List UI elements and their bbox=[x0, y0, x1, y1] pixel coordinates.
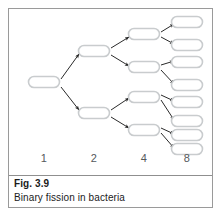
binary-fission-diagram bbox=[9, 9, 212, 157]
bacterial-cell bbox=[172, 130, 203, 141]
figure-caption: Fig. 3.9 Binary fission in bacteria bbox=[14, 178, 210, 204]
fission-arrow bbox=[111, 117, 129, 128]
generation-count-label: 4 bbox=[132, 152, 156, 164]
fission-arrow bbox=[111, 98, 129, 110]
bacterial-cell bbox=[172, 97, 203, 108]
generation-count-label: 2 bbox=[82, 152, 106, 164]
diagram-svg bbox=[9, 9, 212, 157]
fission-arrow bbox=[61, 87, 79, 110]
bacterial-cell bbox=[29, 77, 60, 88]
bacterial-cell bbox=[172, 17, 203, 28]
cell-layer bbox=[29, 17, 203, 155]
bacterial-cell bbox=[79, 46, 110, 57]
figure-frame: 1248 Fig. 3.9 Binary fission in bacteria bbox=[8, 8, 213, 208]
bacterial-cell bbox=[172, 116, 203, 127]
generation-count-label: 8 bbox=[175, 152, 199, 164]
bacterial-cell bbox=[129, 29, 160, 40]
fission-arrow bbox=[111, 37, 129, 48]
generation-count-label: 1 bbox=[32, 152, 56, 164]
bacterial-cell bbox=[172, 57, 203, 68]
fission-arrow bbox=[61, 54, 79, 79]
caption-divider bbox=[9, 175, 212, 176]
fission-arrow bbox=[111, 55, 129, 66]
bacterial-cell bbox=[172, 40, 203, 51]
bacterial-cell bbox=[129, 125, 160, 136]
bacterial-cell bbox=[129, 92, 160, 103]
figure-title: Binary fission in bacteria bbox=[14, 191, 210, 204]
bacterial-cell bbox=[129, 62, 160, 73]
generation-labels: 1248 bbox=[9, 152, 212, 172]
figure-number: Fig. 3.9 bbox=[14, 178, 210, 190]
bacterial-cell bbox=[172, 80, 203, 91]
bacterial-cell bbox=[79, 108, 110, 119]
